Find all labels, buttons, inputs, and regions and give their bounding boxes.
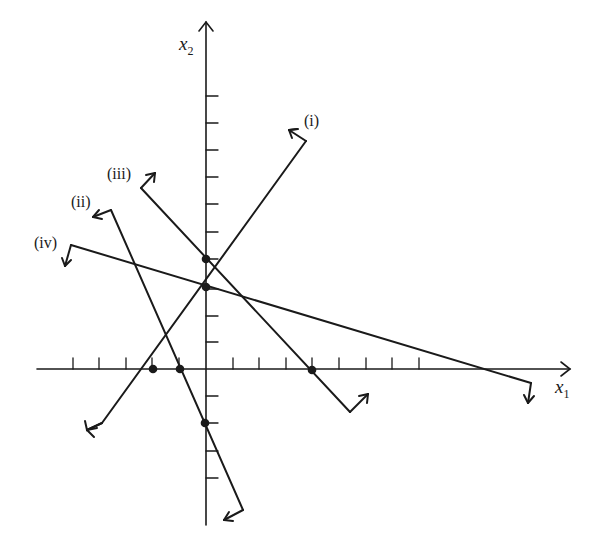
constraint-line-iii — [141, 173, 368, 412]
constraint-lines-diagram: x1 x2 (i) (ii) (iii) (iv) — [0, 0, 612, 555]
x1-axis-label: x1 — [554, 376, 569, 401]
line-label-i: (i) — [304, 112, 319, 130]
line-label-iii: (iii) — [107, 165, 131, 183]
point-y-neg2 — [201, 419, 210, 428]
point-x-neg2 — [149, 365, 158, 374]
x-axis-ticks — [73, 358, 419, 369]
point-x-4 — [308, 366, 317, 375]
line-label-iv: (iv) — [34, 234, 57, 252]
intercept-points — [149, 255, 317, 428]
point-y-3 — [202, 283, 211, 292]
x2-axis-label: x2 — [178, 33, 193, 58]
constraint-line-ii — [93, 210, 243, 521]
point-x-neg1 — [176, 365, 185, 374]
line-label-ii: (ii) — [71, 193, 91, 211]
point-y-4 — [202, 255, 211, 264]
